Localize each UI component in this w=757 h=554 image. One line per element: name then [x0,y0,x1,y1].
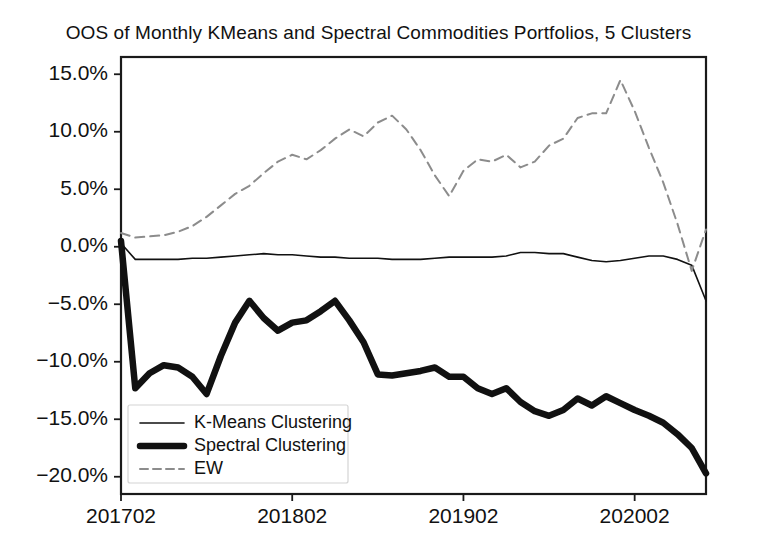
x-tick-label: 201702 [86,504,156,527]
y-tick-label: 10.0% [48,118,108,141]
legend-label-2: Spectral Clustering [194,435,346,455]
y-tick-label: 15.0% [48,61,108,84]
y-tick-label: 5.0% [60,176,108,199]
legend-label-3: EW [194,458,223,478]
x-tick-label: 201802 [257,504,327,527]
x-axis-ticks: 201702201802201902202002 [86,494,670,527]
series-line-k-means-clustering [121,243,706,300]
y-tick-label: −20.0% [36,463,108,486]
chart-legend: K-Means ClusteringSpectral ClusteringEW [128,405,352,483]
y-tick-label: −5.0% [48,291,108,314]
series-line-ew [121,80,706,271]
line-chart-plot: 15.0%10.0%5.0%0.0%−5.0%−10.0%−15.0%−20.0… [0,0,757,554]
x-tick-label: 202002 [600,504,670,527]
y-axis-ticks: 15.0%10.0%5.0%0.0%−5.0%−10.0%−15.0%−20.0… [36,61,121,487]
y-tick-label: −15.0% [36,406,108,429]
legend-label-1: K-Means Clustering [194,412,352,432]
y-tick-label: 0.0% [60,233,108,256]
y-tick-label: −10.0% [36,348,108,371]
chart-figure: OOS of Monthly KMeans and Spectral Commo… [0,0,757,554]
x-tick-label: 201902 [428,504,498,527]
